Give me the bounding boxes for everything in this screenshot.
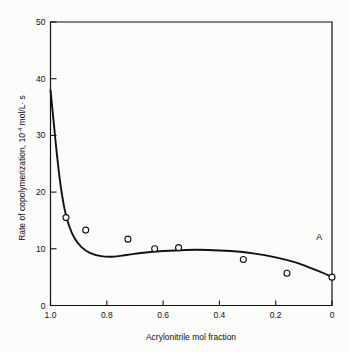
x-tick-label: 1.0 — [45, 310, 57, 320]
data-point-marker — [83, 227, 89, 233]
annotation-label: A — [316, 232, 322, 242]
y-axis-title-text: Rate of copolymerization, 10-4 mol/L· s — [17, 95, 27, 241]
x-tick-label: 0.2 — [270, 310, 282, 320]
data-point-marker — [284, 270, 290, 276]
data-point-marker — [240, 257, 246, 263]
y-axis-ticks — [51, 22, 57, 306]
y-tick-label: 20 — [36, 187, 46, 197]
data-point-marker — [329, 274, 335, 280]
curve-annotations: A — [316, 232, 322, 242]
axis-frame — [51, 22, 333, 306]
x-axis-title: Acrylonitrile mol fraction — [146, 332, 236, 342]
chart-plot-area: 1.00.80.60.40.20 01020304050 A Acrylonit… — [0, 0, 350, 352]
y-tick-label: 10 — [36, 244, 46, 254]
x-tick-label: 0 — [330, 310, 335, 320]
fitted-curve-line — [51, 90, 333, 277]
y-axis-title: Rate of copolymerization, 10-4 mol/L· s — [17, 95, 27, 241]
x-axis-tick-labels: 1.00.80.60.40.20 — [45, 310, 335, 320]
data-point-marker — [63, 215, 69, 221]
chart-figure: 1.00.80.60.40.20 01020304050 A Acrylonit… — [0, 0, 350, 352]
x-tick-label: 0.6 — [157, 310, 169, 320]
y-tick-label: 30 — [36, 130, 46, 140]
data-group — [51, 90, 336, 280]
data-point-marker — [125, 236, 131, 242]
data-point-marker — [152, 246, 158, 252]
y-tick-label: 40 — [36, 74, 46, 84]
x-axis-ticks — [51, 301, 333, 306]
data-point-marker — [176, 245, 182, 251]
x-tick-label: 0.4 — [213, 310, 225, 320]
y-tick-label: 0 — [41, 301, 46, 311]
y-axis-tick-labels: 01020304050 — [36, 17, 46, 311]
x-tick-label: 0.8 — [101, 310, 113, 320]
data-point-markers — [63, 215, 335, 281]
y-tick-label: 50 — [36, 17, 46, 27]
